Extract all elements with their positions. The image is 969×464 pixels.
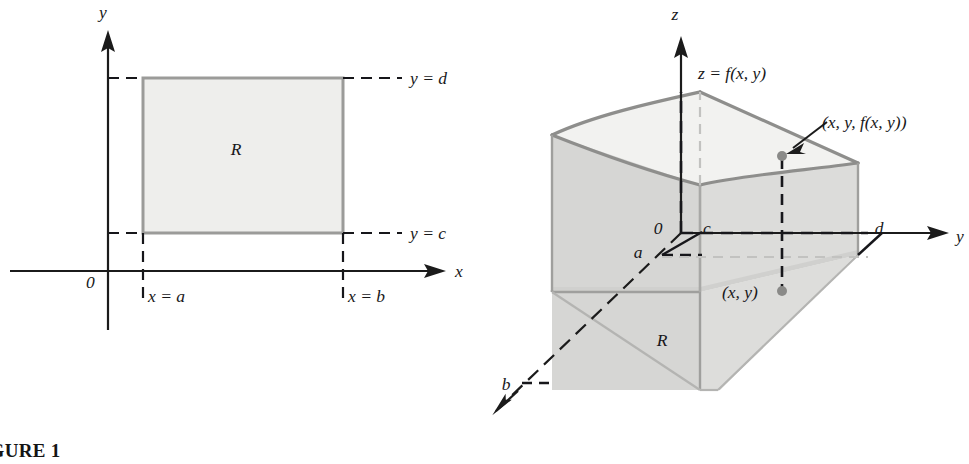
bound-label-a: a	[634, 242, 643, 262]
figure-2-z-axis-label: z	[671, 4, 679, 24]
figure-2-graphic: z y x 0 z = f(x, y) (x, y, f(x, y)) (x, …	[490, 0, 969, 430]
figure-2-origin-label: 0	[654, 218, 663, 238]
figure-2-y-axis-label: y	[954, 226, 964, 246]
label-y-equals-d: y = d	[408, 68, 447, 88]
label-x-equals-a: x = a	[147, 286, 185, 306]
figure-1-panel: y x 0 R y = d y = c x = a x = b FIGURE 1	[0, 0, 490, 464]
x-axis-arrow-stem	[496, 391, 518, 411]
point-in-region-dot	[777, 286, 787, 296]
bound-label-b: b	[502, 374, 511, 394]
figure-1-graphic: y x 0 R y = d y = c x = a x = b	[0, 0, 490, 420]
figure-1-y-axis-label: y	[97, 2, 107, 22]
figure-1-caption: FIGURE 1	[0, 440, 61, 462]
surface-equation-label: z = f(x, y)	[697, 63, 766, 83]
figure-1-x-axis-label: x	[454, 261, 463, 281]
label-x-equals-b: x = b	[347, 286, 385, 306]
bound-label-c: c	[703, 218, 711, 238]
point-3d-coordinate-label: (x, y, f(x, y))	[822, 112, 907, 132]
figure-2-region-label: R	[656, 330, 668, 350]
point-2d-coordinate-label: (x, y)	[722, 282, 758, 302]
region-r-rectangle	[143, 78, 343, 233]
figure-2-panel: z y x 0 z = f(x, y) (x, y, f(x, y)) (x, …	[490, 0, 969, 464]
point-on-surface-dot	[777, 151, 787, 161]
figure-1-origin-label: 0	[86, 272, 95, 292]
label-y-equals-c: y = c	[408, 223, 446, 243]
figure-1-region-label: R	[230, 139, 242, 159]
bound-label-d: d	[875, 218, 884, 238]
